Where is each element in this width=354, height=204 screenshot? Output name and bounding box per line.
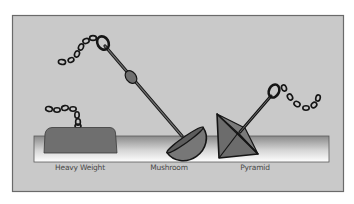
heavy-weight-block — [44, 128, 117, 154]
label-heavy-weight: Heavy Weight — [55, 163, 105, 172]
anchor-diagram: Heavy Weight Mushroom Pyramid — [0, 0, 354, 204]
label-mushroom: Mushroom — [150, 163, 188, 172]
diagram-canvas: Heavy Weight Mushroom Pyramid — [0, 0, 354, 204]
label-pyramid: Pyramid — [240, 163, 270, 172]
